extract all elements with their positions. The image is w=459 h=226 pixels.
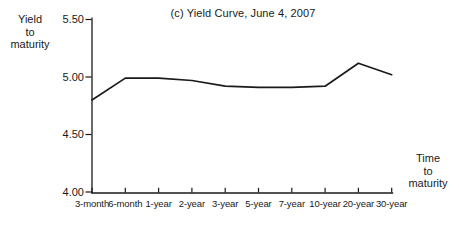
y-tick-label: 4.50 — [55, 128, 84, 141]
yield-curve-figure: (c) Yield Curve, June 4, 2007 Yield to m… — [0, 0, 459, 226]
x-tick-label: 30-year — [368, 198, 416, 209]
yield-curve-line — [92, 63, 392, 100]
axes — [91, 18, 393, 194]
y-tick-label: 5.50 — [55, 13, 84, 26]
y-tick-label: 5.00 — [55, 71, 84, 84]
tick-marks — [86, 20, 392, 193]
